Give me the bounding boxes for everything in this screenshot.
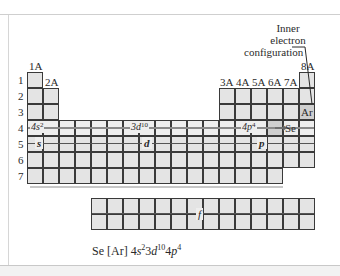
electron-configuration-caption: Se [Ar] 4s23d104p4 xyxy=(92,244,181,258)
caption-term-3d: 3d10 xyxy=(145,244,165,258)
caption-symbol: Se xyxy=(92,244,104,258)
caption-term-4s: 4s2 xyxy=(131,244,146,258)
caption-core: [Ar] xyxy=(107,244,128,258)
caption-term-4p: 4p4 xyxy=(165,244,181,258)
leader-lines xyxy=(0,0,340,276)
